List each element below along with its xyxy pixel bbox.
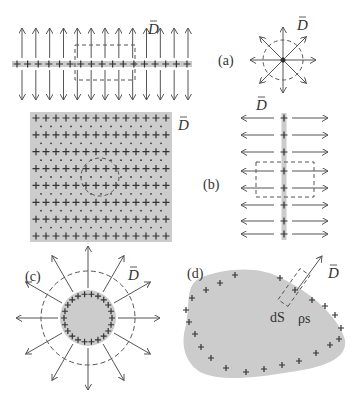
charge-dot	[140, 227, 142, 229]
charge-dot	[150, 193, 152, 195]
line-charge	[12, 28, 192, 100]
charge-dot	[60, 176, 62, 178]
charge-dot	[120, 159, 122, 161]
charge-dot	[70, 159, 72, 161]
charge-dot	[110, 210, 112, 212]
charge-dot	[110, 193, 112, 195]
vector-d-text: D	[177, 117, 189, 133]
charge-dot	[110, 227, 112, 229]
charge-dot	[140, 159, 142, 161]
field-arrow	[260, 62, 281, 83]
charge-dot	[90, 210, 92, 212]
charge-dot	[40, 126, 42, 128]
vector-d-label-conductor: D	[327, 265, 339, 281]
charge-dot	[60, 210, 62, 212]
panel-label-b: (b)	[203, 177, 220, 193]
charge-dot	[70, 142, 72, 144]
charge-dot	[130, 176, 132, 178]
charge-dot	[120, 176, 122, 178]
surface-element-label: dS	[270, 310, 285, 325]
vector-d-text: D	[255, 97, 267, 113]
charge-dot	[150, 159, 152, 161]
panel-d-arbitrary-conductor: (d) dS ρs D	[183, 256, 345, 378]
vector-d-label-plate: D	[177, 117, 189, 133]
charge-dot	[100, 193, 102, 195]
charge-dot	[50, 210, 52, 212]
charge-dot	[120, 210, 122, 212]
charge-dot	[70, 227, 72, 229]
charge-dot	[110, 176, 112, 178]
charge-dot	[90, 227, 92, 229]
charge-dot	[100, 159, 102, 161]
charge-dot	[140, 176, 142, 178]
field-arrow	[26, 282, 62, 303]
field-arrow	[103, 256, 124, 292]
charge-dot	[110, 142, 112, 144]
plus-charge-icon	[280, 57, 286, 63]
charge-dot	[130, 159, 132, 161]
vector-d-text: D	[127, 267, 139, 283]
vector-d-text: D	[327, 265, 339, 281]
charge-dot	[160, 210, 162, 212]
field-arrow	[260, 37, 281, 58]
charge-dot	[60, 142, 62, 144]
charge-dot	[90, 176, 92, 178]
vector-d-label-sphere: D	[127, 267, 139, 283]
field-arrow	[103, 344, 124, 380]
charge-dot	[120, 193, 122, 195]
charge-dot	[40, 210, 42, 212]
field-arrow	[114, 282, 150, 303]
charge-dot	[50, 126, 52, 128]
field-arrow	[297, 256, 322, 290]
charge-dot	[60, 126, 62, 128]
vector-d-text: D	[147, 21, 159, 37]
charge-dot	[110, 126, 112, 128]
charge-dot	[160, 159, 162, 161]
charge-dot	[50, 159, 52, 161]
charge-dot	[150, 126, 152, 128]
surface-charge-density-label: ρs	[298, 311, 310, 326]
conductor-shape	[184, 270, 346, 378]
plus-charge-icon	[332, 312, 338, 318]
charge-dot	[50, 227, 52, 229]
field-arrow	[52, 256, 73, 292]
charge-dot	[160, 176, 162, 178]
charge-dot	[80, 193, 82, 195]
charge-dot	[140, 126, 142, 128]
charge-dot	[50, 176, 52, 178]
point-charge	[250, 27, 316, 93]
charge-dot	[140, 142, 142, 144]
charge-dot	[100, 210, 102, 212]
panel-a-line-and-point-charge: (a) D D	[12, 17, 316, 100]
panel-b-plate-and-sheet: (b) D D	[30, 97, 328, 242]
charge-dot	[70, 210, 72, 212]
charge-dot	[80, 210, 82, 212]
charge-dot	[40, 159, 42, 161]
field-arrow	[52, 344, 73, 380]
charge-dot	[50, 193, 52, 195]
charge-dot	[100, 227, 102, 229]
charge-dot	[160, 142, 162, 144]
charge-dot	[90, 126, 92, 128]
panel-label-d: (d)	[187, 266, 204, 282]
panel-label-a: (a)	[218, 53, 234, 69]
charge-dot	[40, 176, 42, 178]
charge-dot	[60, 193, 62, 195]
charge-dot	[40, 193, 42, 195]
charge-dot	[80, 227, 82, 229]
charge-dot	[160, 193, 162, 195]
conductor-body	[183, 256, 345, 378]
charge-dot	[130, 210, 132, 212]
charge-dot	[100, 142, 102, 144]
charge-dot	[40, 227, 42, 229]
charge-dot	[120, 126, 122, 128]
charge-dot	[130, 193, 132, 195]
charge-dot	[100, 176, 102, 178]
charge-dot	[100, 126, 102, 128]
charge-dot	[70, 126, 72, 128]
charge-dot	[80, 142, 82, 144]
vector-d-label-sheet: D	[255, 97, 267, 113]
charge-dot	[90, 142, 92, 144]
charge-dot	[70, 176, 72, 178]
charge-dot	[150, 176, 152, 178]
